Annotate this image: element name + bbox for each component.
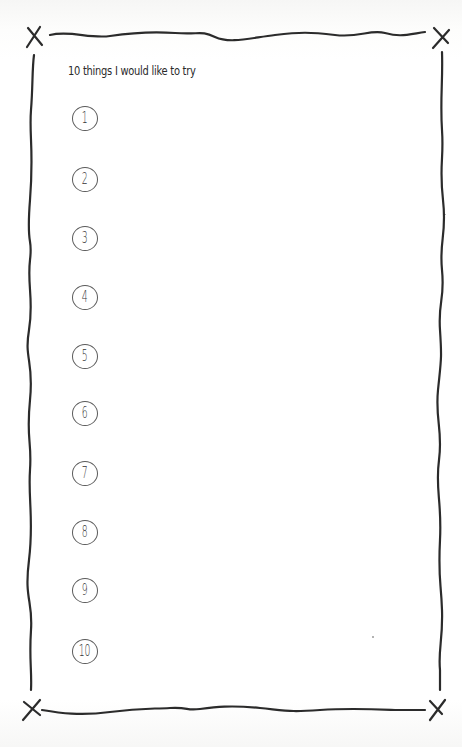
x-mark-top-left [27,27,42,47]
entry-field-9[interactable] [110,580,420,602]
entry-field-10[interactable] [110,641,420,663]
list-item-6: 6 [72,401,100,428]
item-number: 2 [82,172,88,187]
border-top [50,32,425,40]
page-title: 10 things I would like to try [68,64,196,78]
number-circle: 6 [72,401,98,426]
entry-field-3[interactable] [110,228,420,250]
paper-speck [445,214,446,215]
list-item-9: 9 [72,578,100,605]
number-circle: 1 [72,106,98,131]
item-number: 1 [82,111,88,126]
x-mark-top-right [433,28,449,48]
list-item-10: 10 [72,639,100,666]
entry-field-7[interactable] [110,463,420,485]
number-circle: 4 [72,285,98,310]
entry-field-2[interactable] [110,169,420,191]
number-circle: 7 [72,461,98,486]
entry-field-1[interactable] [110,108,420,130]
entry-field-8[interactable] [110,522,420,544]
item-number: 4 [82,290,88,305]
paper-speck [372,636,374,638]
number-circle: 9 [72,578,98,603]
number-circle: 3 [72,226,98,251]
border-left [27,55,34,690]
entry-field-4[interactable] [110,287,420,309]
entry-field-6[interactable] [110,403,420,425]
border-bottom [42,706,425,713]
item-number: 6 [82,406,88,421]
item-number: 7 [82,466,88,481]
number-circle: 5 [72,344,98,369]
entry-field-5[interactable] [110,346,420,368]
list-item-7: 7 [72,461,100,488]
item-number: 3 [82,231,88,246]
number-circle: 2 [72,167,98,192]
item-number: 9 [82,583,88,598]
journal-page: 10 things I would like to try 1 2 3 4 5 … [0,0,462,747]
list-item-1: 1 [72,106,100,133]
item-number: 8 [82,525,88,540]
item-number: 5 [82,349,88,364]
x-mark-bottom-right [430,700,445,720]
list-item-5: 5 [72,344,100,371]
number-circle: 8 [72,520,98,545]
list-item-4: 4 [72,285,100,312]
item-number: 10 [79,644,91,659]
number-circle: 10 [72,639,98,664]
border-right [437,52,444,690]
x-mark-bottom-left [23,700,40,720]
list-item-8: 8 [72,520,100,547]
list-item-3: 3 [72,226,100,253]
list-item-2: 2 [72,167,100,194]
